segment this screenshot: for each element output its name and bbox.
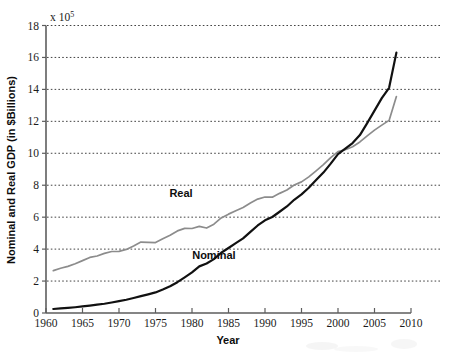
y-tick-label-8: 8 — [33, 179, 39, 191]
figure-background — [0, 0, 450, 353]
x-tick-label-2010: 2010 — [400, 317, 423, 329]
y-axis-exponent-base: x 10 — [50, 11, 70, 23]
x-tick-label-1975: 1975 — [144, 317, 167, 329]
x-tick-label-1990: 1990 — [254, 317, 277, 329]
y-tick-label-2: 2 — [33, 275, 39, 287]
x-tick-label-2005: 2005 — [363, 317, 386, 329]
y-tick-label-12: 12 — [28, 115, 40, 127]
y-tick-label-16: 16 — [28, 51, 40, 63]
y-tick-label-4: 4 — [33, 243, 39, 255]
x-tick-label-1980: 1980 — [181, 317, 204, 329]
x-tick-label-2000: 2000 — [327, 317, 350, 329]
x-tick-label-1985: 1985 — [217, 317, 240, 329]
y-axis-title: Nominal and Real GDP (in $Billions) — [5, 76, 17, 264]
x-tick-label-1960: 1960 — [35, 317, 58, 329]
gdp-line-chart-svg: 024681012141618 196019651970197519801985… — [0, 0, 450, 353]
y-tick-label-6: 6 — [33, 211, 39, 223]
y-axis-exponent-power: 5 — [70, 10, 74, 19]
x-tick-label-1970: 1970 — [108, 317, 131, 329]
x-tick-label-1965: 1965 — [71, 317, 94, 329]
y-tick-label-14: 14 — [28, 83, 40, 95]
x-axis-title: Year — [216, 334, 240, 346]
y-tick-label-10: 10 — [28, 147, 40, 159]
gdp-chart-figure: 024681012141618 196019651970197519801985… — [0, 0, 450, 353]
series-annotation-nominal: Nominal — [192, 249, 235, 261]
x-tick-label-1995: 1995 — [290, 317, 313, 329]
y-tick-label-18: 18 — [28, 20, 40, 32]
series-annotation-real: Real — [169, 187, 192, 199]
